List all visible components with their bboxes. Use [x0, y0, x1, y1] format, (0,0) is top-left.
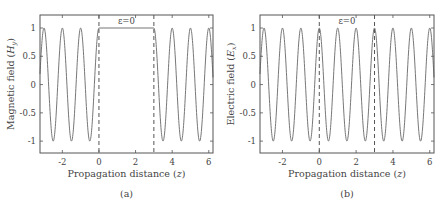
- y-axis-label: Magnetic field (Hy): [5, 38, 18, 130]
- axes-frame: [40, 15, 213, 153]
- field-curve: [260, 28, 434, 141]
- y-tick-label: 1: [251, 23, 256, 33]
- x-tick-label: 2: [353, 157, 358, 167]
- y-tick-label: -1: [248, 136, 256, 146]
- x-axis-label: Propagation distance (z): [68, 168, 186, 179]
- field-curve: [154, 28, 213, 141]
- y-tick-label: 1: [31, 23, 36, 33]
- x-tick-label: 0: [96, 157, 101, 167]
- epsilon-zero-annotation: ε=0: [118, 16, 135, 26]
- axes-frame: [260, 15, 434, 153]
- x-tick-label: 0: [317, 157, 322, 167]
- x-tick-label: 2: [133, 157, 138, 167]
- y-tick-label: 0.5: [242, 51, 256, 61]
- field-curve: [40, 28, 99, 141]
- y-tick-label: 0.5: [22, 51, 36, 61]
- x-tick-label: 6: [206, 157, 211, 167]
- x-tick-label: -2: [58, 157, 66, 167]
- x-axis-label: Propagation distance (z): [288, 168, 406, 179]
- y-tick-label: -0.5: [240, 108, 256, 118]
- chart-panel-b: -2024610.50-0.5-1ε=0Propagation distance…: [220, 0, 442, 203]
- magnetic-field-chart: -2024610.50-0.5-1ε=0Propagation distance…: [0, 0, 222, 203]
- y-tick-label: 0: [31, 80, 36, 90]
- electric-field-chart: -2024610.50-0.5-1ε=0Propagation distance…: [220, 0, 445, 203]
- panel-label: (b): [340, 188, 354, 199]
- y-tick-label: 0: [251, 80, 256, 90]
- x-tick-label: 4: [390, 157, 395, 167]
- x-tick-label: 4: [169, 157, 174, 167]
- x-tick-label: 6: [427, 157, 432, 167]
- panel-label: (a): [120, 188, 133, 199]
- epsilon-zero-annotation: ε=0: [338, 16, 355, 26]
- x-tick-label: -2: [278, 157, 286, 167]
- chart-panel-a: -2024610.50-0.5-1ε=0Propagation distance…: [0, 0, 222, 203]
- y-tick-label: -0.5: [20, 108, 36, 118]
- y-tick-label: -1: [28, 136, 36, 146]
- y-axis-label: Electric field (Ex): [225, 43, 238, 126]
